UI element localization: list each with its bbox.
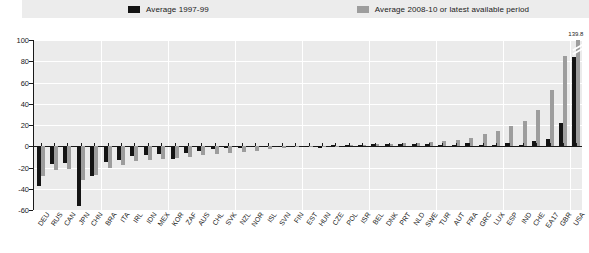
x-tick-label-tur: TUR (438, 211, 452, 227)
y-tick-label: 80 (3, 57, 29, 66)
x-tick-label-mex: MEX (157, 211, 171, 227)
bar-can-average-2008-10 (67, 146, 71, 168)
x-tick-label-aut: AUT (452, 211, 466, 226)
x-tick-mark (201, 143, 202, 146)
bar-est-average-1997-99 (305, 146, 309, 147)
x-tick-mark (67, 143, 68, 146)
bar-group (572, 40, 585, 210)
x-tick-label-chn: CHN (90, 211, 104, 227)
x-tick-mark (255, 143, 256, 146)
y-tick-label: 40 (3, 99, 29, 108)
x-tick-mark (134, 143, 135, 146)
bar-idn-average-2008-10 (148, 146, 152, 160)
bar-ita-average-2008-10 (121, 146, 125, 165)
bar-aus-average-2008-10 (201, 146, 205, 155)
bar-gbr-average-2008-10 (563, 56, 567, 146)
x-tick-label-bel: BEL (372, 211, 385, 226)
gridline-vertical (168, 40, 169, 210)
bar-nzl-average-2008-10 (242, 146, 246, 151)
gridline-vertical (570, 40, 571, 210)
x-tick-mark (188, 143, 189, 146)
x-tick-label-est: EST (305, 211, 319, 226)
x-tick-mark (442, 143, 443, 146)
bar-svk-average-2008-10 (228, 146, 232, 152)
gridline (34, 83, 582, 84)
x-tick-mark (536, 143, 537, 146)
bar-fin-average-2008-10 (295, 146, 299, 147)
y-tick-label: 20 (3, 121, 29, 130)
x-tick-label-isr: ISR (359, 211, 371, 225)
x-tick-label-cze: CZE (331, 211, 345, 226)
y-tick-label: -60 (3, 206, 29, 215)
bar-kor-average-2008-10 (175, 146, 179, 158)
legend-swatch-light (357, 6, 369, 13)
legend-swatch-dark (128, 6, 140, 13)
bar-aus-average-1997-99 (197, 146, 201, 150)
gridline (34, 61, 582, 62)
bar-mex-average-1997-99 (157, 146, 161, 153)
bar-chl-average-2008-10 (215, 146, 219, 153)
legend-label-average-2008-10: Average 2008-10 or latest available peri… (375, 5, 529, 14)
bar-zaf-average-1997-99 (184, 146, 188, 152)
x-tick-mark (215, 143, 216, 146)
x-tick-label-fra: FRA (465, 211, 479, 226)
legend-label-average-1997-99: Average 1997-99 (146, 5, 209, 14)
bar-jpn-average-2008-10 (81, 146, 85, 180)
x-tick-mark (121, 143, 122, 146)
x-tick-mark (295, 143, 296, 146)
x-tick-mark (483, 143, 484, 146)
x-tick-label-zaf: ZAF (184, 211, 197, 226)
bar-irl-average-2008-10 (134, 146, 138, 161)
x-tick-mark (416, 143, 417, 146)
bar-irl-average-1997-99 (130, 146, 134, 156)
bar-usa-average-2008-10 (576, 40, 580, 146)
plot-area: 139.8 (33, 40, 582, 210)
bar-svk-average-1997-99 (224, 146, 228, 148)
x-tick-label-ea17: EA17 (544, 211, 560, 229)
bar-nor-average-2008-10 (255, 146, 259, 150)
x-tick-mark (161, 143, 162, 146)
bar-bra-average-1997-99 (104, 146, 108, 162)
gridline-vertical (369, 40, 370, 210)
y-tick-label: 0 (3, 142, 29, 151)
bar-nzl-average-1997-99 (238, 146, 242, 148)
gridline-vertical (101, 40, 102, 210)
bar-svn-average-2008-10 (282, 146, 286, 148)
x-tick-mark (81, 143, 82, 146)
x-tick-mark (456, 143, 457, 146)
x-tick-mark (94, 143, 95, 146)
x-tick-label-prt: PRT (398, 211, 412, 226)
gridline (34, 189, 582, 190)
usa-value-label: 139.8 (568, 31, 583, 37)
bar-rus-average-2008-10 (54, 146, 58, 169)
x-tick-mark (335, 143, 336, 146)
gridline (34, 104, 582, 105)
x-tick-label-hun: HUN (317, 211, 331, 227)
x-tick-label-nor: NOR (250, 211, 265, 228)
gridline-vertical (302, 40, 303, 210)
x-tick-label-gbr: GBR (558, 211, 572, 227)
x-tick-mark (309, 143, 310, 146)
y-tick-label: -40 (3, 184, 29, 193)
bar-chn-average-1997-99 (90, 146, 94, 176)
x-tick-mark (228, 143, 229, 146)
x-tick-mark (402, 143, 403, 146)
x-tick-mark (268, 143, 269, 146)
x-tick-mark (375, 143, 376, 146)
x-tick-label-rus: RUS (50, 211, 64, 227)
bar-svn-average-1997-99 (278, 146, 282, 147)
gridline (34, 125, 582, 126)
bar-kor-average-1997-99 (171, 146, 175, 159)
legend-item-average-2008-10: Average 2008-10 or latest available peri… (357, 5, 529, 14)
x-tick-mark (496, 143, 497, 146)
x-tick-label-usa: USA (572, 211, 586, 227)
bar-bra-average-2008-10 (108, 146, 112, 167)
bar-jpn-average-1997-99 (77, 146, 81, 206)
x-tick-mark (509, 143, 510, 146)
gridline (34, 168, 582, 169)
x-tick-mark (41, 143, 42, 146)
y-tick-label: 100 (3, 36, 29, 45)
x-tick-label-pol: POL (345, 211, 359, 226)
bar-isl-average-2008-10 (268, 146, 272, 149)
bar-chl-average-1997-99 (211, 146, 215, 149)
